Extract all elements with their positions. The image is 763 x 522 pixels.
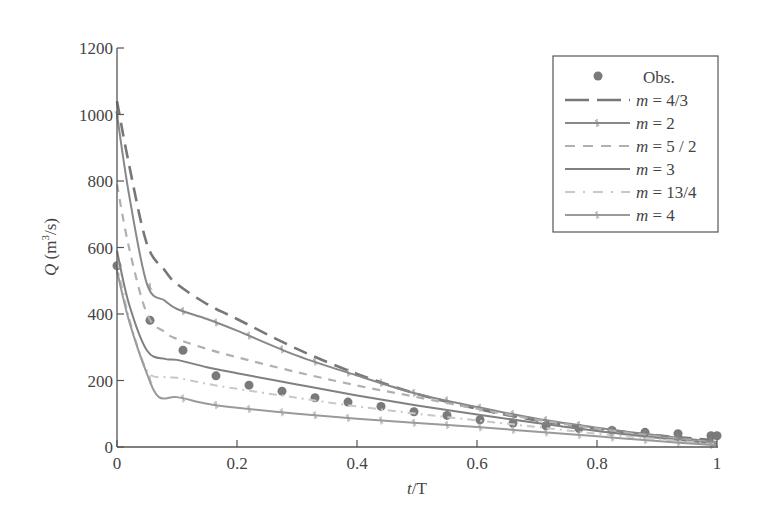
y-tick-label: 200 bbox=[88, 372, 114, 391]
y-axis-title: Q (m3/s) bbox=[39, 218, 60, 276]
y-tick-label: 800 bbox=[88, 172, 114, 191]
y-tick-label: 400 bbox=[88, 305, 114, 324]
obs-point bbox=[278, 387, 287, 396]
obs-point bbox=[443, 411, 452, 420]
x-axis-title: t/T bbox=[407, 479, 427, 498]
legend-label: m = 2 bbox=[636, 114, 675, 133]
obs-marker-icon bbox=[594, 72, 603, 81]
x-tick-label: 0.4 bbox=[346, 454, 368, 473]
obs-point bbox=[212, 371, 221, 380]
y-tick-label: 1000 bbox=[79, 106, 113, 125]
series-m-4 bbox=[115, 267, 717, 449]
x-tick-label: 0.6 bbox=[466, 454, 487, 473]
series-m-13-4 bbox=[117, 261, 717, 445]
legend-label: m = 5 / 2 bbox=[636, 137, 697, 156]
obs-point bbox=[179, 346, 188, 355]
y-tick-label: 0 bbox=[105, 438, 114, 457]
x-tick-label: 0.8 bbox=[586, 454, 607, 473]
x-tick-label: 0.2 bbox=[226, 454, 247, 473]
legend-label: m = 4/3 bbox=[636, 91, 688, 110]
series-line bbox=[117, 261, 717, 445]
legend-label: m = 3 bbox=[636, 160, 675, 179]
obs-point bbox=[245, 381, 254, 390]
obs-point bbox=[476, 415, 485, 424]
y-tick-label: 600 bbox=[88, 239, 114, 258]
x-tick-label: 0 bbox=[113, 454, 122, 473]
discharge-chart: 020040060080010001200 00.20.40.60.81 t/T… bbox=[0, 0, 763, 522]
legend-label: m = 4 bbox=[636, 206, 675, 225]
y-tick-label: 1200 bbox=[79, 39, 113, 58]
legend: Obs.m = 4/3m = 2m = 5 / 2m = 3m = 13/4m … bbox=[553, 56, 718, 232]
x-ticks: 00.20.40.60.81 bbox=[113, 440, 722, 473]
series-line bbox=[117, 271, 717, 446]
legend-label: m = 13/4 bbox=[636, 183, 697, 202]
x-tick-label: 1 bbox=[713, 454, 722, 473]
obs-point bbox=[713, 431, 722, 440]
legend-label: Obs. bbox=[643, 68, 675, 87]
series-obs- bbox=[113, 261, 722, 440]
obs-point bbox=[410, 407, 419, 416]
